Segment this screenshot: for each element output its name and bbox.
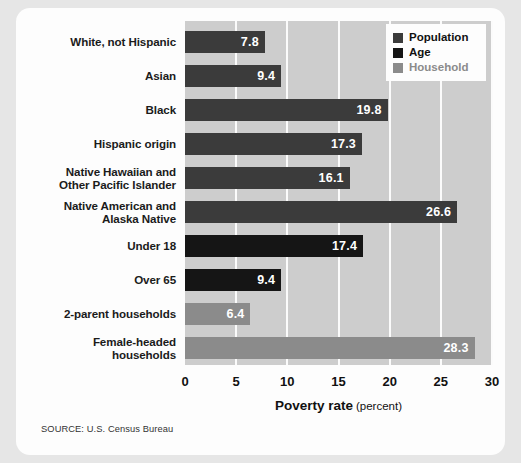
x-tick-label: 20: [370, 374, 410, 389]
source-note: SOURCE: U.S. Census Bureau: [41, 424, 173, 434]
legend-label: Household: [409, 62, 468, 74]
category-label: Under 18: [0, 239, 176, 253]
category-label-line: Under 18: [0, 239, 176, 253]
x-tick-label: 15: [319, 374, 359, 389]
category-label: White, not Hispanic: [0, 35, 176, 49]
legend-swatch-icon: [393, 33, 403, 43]
category-label-line: Hispanic origin: [0, 137, 176, 151]
bar: 9.4: [185, 269, 281, 291]
bar: 17.3: [185, 133, 362, 155]
bar-value-label: 28.3: [443, 342, 468, 355]
bar: 9.4: [185, 65, 281, 87]
category-label-line: Female-headed: [0, 335, 176, 349]
bar-value-label: 26.6: [426, 206, 451, 219]
category-label-line: Alaska Native: [0, 212, 176, 226]
bar: 16.1: [185, 167, 350, 189]
x-axis-title-main: Poverty rate: [275, 398, 353, 413]
category-label: Hispanic origin: [0, 137, 176, 151]
x-tick-label: 0: [165, 374, 205, 389]
bar: 6.4: [185, 303, 250, 325]
x-axis-title-unit: (percent): [356, 400, 402, 412]
category-label-line: 2-parent households: [0, 307, 176, 321]
legend-label: Population: [409, 32, 468, 44]
bar: 7.8: [185, 31, 265, 53]
legend-item: Age: [393, 45, 480, 60]
category-label-line: Native Hawaiian and: [0, 165, 176, 179]
bar-value-label: 6.4: [227, 308, 245, 321]
bar: 26.6: [185, 201, 457, 223]
gridline: [286, 21, 288, 365]
category-label: 2-parent households: [0, 307, 176, 321]
bar-value-label: 19.8: [356, 104, 381, 117]
bar: 28.3: [185, 337, 475, 359]
category-label: Over 65: [0, 273, 176, 287]
chart-legend: PopulationAgeHousehold: [386, 24, 486, 81]
bar: 17.4: [185, 235, 363, 257]
x-tick-label: 25: [421, 374, 461, 389]
bar-value-label: 16.1: [319, 172, 344, 185]
category-label-line: households: [0, 348, 176, 362]
poverty-rate-bar-chart: 7.89.419.817.316.126.617.49.46.428.3 Whi…: [0, 0, 521, 463]
category-label-line: Native American and: [0, 199, 176, 213]
gridline: [338, 21, 340, 365]
category-label-line: Other Pacific Islander: [0, 178, 176, 192]
x-axis-title: Poverty rate(percent): [185, 396, 492, 414]
legend-item: Household: [393, 60, 480, 75]
category-label: Native American andAlaska Native: [0, 199, 176, 226]
x-tick-label: 30: [472, 374, 512, 389]
category-label: Asian: [0, 69, 176, 83]
legend-swatch-icon: [393, 63, 403, 73]
bar-value-label: 9.4: [257, 274, 275, 287]
legend-item: Population: [393, 30, 480, 45]
category-label: Black: [0, 103, 176, 117]
x-tick-label: 5: [216, 374, 256, 389]
category-label-line: Asian: [0, 69, 176, 83]
bar-value-label: 9.4: [257, 70, 275, 83]
category-label-line: Over 65: [0, 273, 176, 287]
legend-label: Age: [409, 47, 431, 59]
bar-value-label: 17.4: [332, 240, 357, 253]
category-label-line: Black: [0, 103, 176, 117]
legend-swatch-icon: [393, 48, 403, 58]
gridline: [491, 21, 493, 365]
bar-value-label: 7.8: [241, 36, 259, 49]
bar: 19.8: [185, 99, 388, 121]
x-tick-label: 10: [267, 374, 307, 389]
category-label: Female-headedhouseholds: [0, 335, 176, 362]
chart-screenshot: 7.89.419.817.316.126.617.49.46.428.3 Whi…: [0, 0, 521, 463]
category-label-line: White, not Hispanic: [0, 35, 176, 49]
bar-value-label: 17.3: [331, 138, 356, 151]
category-label: Native Hawaiian andOther Pacific Islande…: [0, 165, 176, 192]
